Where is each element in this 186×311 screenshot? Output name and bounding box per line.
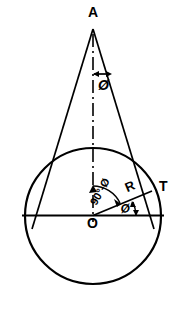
center-angle-label: Ø bbox=[120, 202, 131, 215]
figure-canvas: A T O Ø R Ø 90°-Ø bbox=[0, 0, 186, 311]
point-label-A: A bbox=[88, 5, 98, 19]
point-label-T: T bbox=[159, 179, 168, 193]
tangent-line-left bbox=[32, 29, 93, 229]
geometry-diagram bbox=[0, 0, 186, 311]
apex-angle-label: Ø bbox=[98, 78, 109, 92]
angle-arc-phi-arrow-upper bbox=[130, 201, 136, 207]
point-label-O: O bbox=[87, 216, 98, 230]
